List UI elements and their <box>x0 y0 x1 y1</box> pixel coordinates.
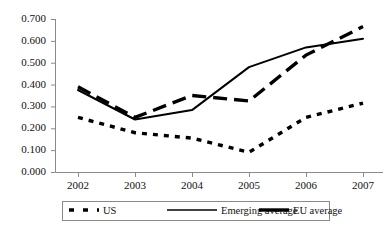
x-axis-tick-label: 2004 <box>167 180 217 191</box>
legend-label: US <box>103 206 116 217</box>
y-axis-tick-label: 0.300 <box>2 100 46 111</box>
legend-entries-container: USEmerging averageEU average <box>63 202 329 220</box>
x-axis-tick-label: 2003 <box>110 180 160 191</box>
legend-entry: EU average <box>259 202 342 220</box>
y-axis-tick-label: 0.000 <box>2 166 46 177</box>
chart-plot-area <box>0 0 392 234</box>
x-axis-tick-label: 2006 <box>281 180 331 191</box>
legend-swatch-dotted <box>69 202 99 220</box>
series-line-emerging-average <box>78 39 363 120</box>
y-axis-tick-label: 0.500 <box>2 57 46 68</box>
chart-legend: USEmerging averageEU average <box>62 201 330 221</box>
legend-swatch-dashed <box>259 202 289 220</box>
y-axis-tick-label: 0.100 <box>2 144 46 155</box>
y-axis-tick-label: 0.200 <box>2 122 46 133</box>
x-axis-tick-label: 2002 <box>53 180 103 191</box>
y-axis-tick-label: 0.400 <box>2 79 46 90</box>
chart-series-group <box>78 27 363 153</box>
legend-swatch-solid <box>167 202 217 220</box>
y-axis-tick-label: 0.700 <box>2 13 46 24</box>
y-axis-tick-label: 0.600 <box>2 35 46 46</box>
line-chart: 0.0000.1000.2000.3000.4000.5000.6000.700… <box>0 0 392 234</box>
series-line-eu-average <box>78 27 363 118</box>
x-axis-tick-label: 2007 <box>338 180 388 191</box>
x-axis-tick-label: 2005 <box>224 180 274 191</box>
legend-entry: US <box>69 202 116 220</box>
legend-label: EU average <box>293 206 342 217</box>
y-tick-marks <box>51 20 56 173</box>
x-tick-marks <box>79 173 364 178</box>
